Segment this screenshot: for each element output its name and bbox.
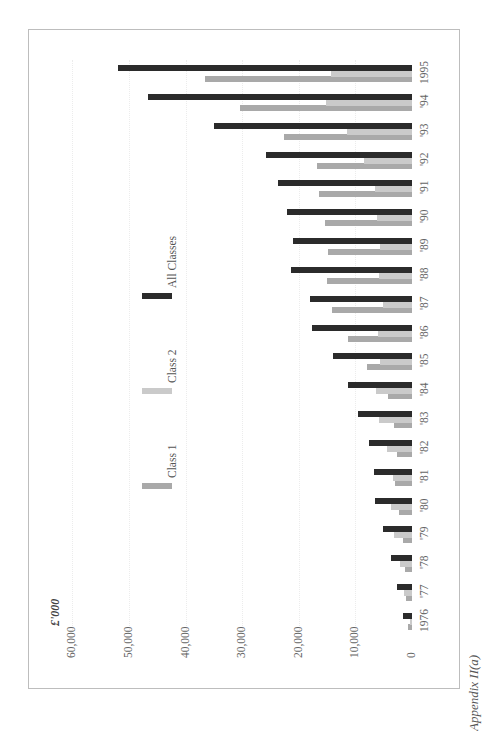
legend-label: All Classes xyxy=(166,236,178,288)
legend-swatch xyxy=(142,483,172,489)
gridline xyxy=(242,60,243,630)
bar-all-classes xyxy=(333,353,412,359)
bar-class-2 xyxy=(379,417,412,423)
bar-class-2 xyxy=(326,100,412,106)
x-axis-category-label: '86 xyxy=(418,325,430,339)
bar-all-classes xyxy=(291,267,412,273)
bar-class-2 xyxy=(394,532,412,538)
bar-all-classes xyxy=(214,123,412,129)
bar-all-classes xyxy=(391,555,412,561)
bar-class-2 xyxy=(380,244,412,250)
x-axis-category-label: '81 xyxy=(418,469,430,483)
y-axis-tick-label: 0 xyxy=(405,652,417,658)
bar-all-classes xyxy=(358,411,412,417)
bar-class-2 xyxy=(364,158,412,164)
bar-class-2 xyxy=(393,475,412,481)
gridline xyxy=(72,60,73,630)
y-axis-tick-label: 50,000 xyxy=(122,626,134,658)
bar-all-classes xyxy=(383,526,412,532)
bar-all-classes xyxy=(266,152,412,158)
figure-caption: Appendix II(a) xyxy=(466,655,482,731)
y-axis-unit-label: £'000 xyxy=(48,599,63,626)
bar-all-classes xyxy=(348,382,412,388)
bar-class-2 xyxy=(383,302,412,308)
bar-class-2 xyxy=(375,186,412,192)
x-axis-category-label: '78 xyxy=(418,556,430,570)
gridline xyxy=(299,60,300,630)
x-axis-category-label: '88 xyxy=(418,267,430,281)
bar-all-classes xyxy=(293,238,412,244)
x-axis-category-label: '93 xyxy=(418,123,430,137)
gridline xyxy=(129,60,130,630)
bar-all-classes xyxy=(397,584,412,590)
y-axis-tick-label: 60,000 xyxy=(65,626,77,658)
x-axis-category-label: '89 xyxy=(418,238,430,252)
legend-label: Class 2 xyxy=(166,349,178,383)
bar-class-2 xyxy=(400,561,412,567)
bar-all-classes xyxy=(118,65,412,71)
x-axis-category-label: '79 xyxy=(418,527,430,541)
bar-class-2 xyxy=(331,71,412,77)
y-axis-tick-label: 10,000 xyxy=(348,626,360,658)
bar-all-classes xyxy=(278,180,412,186)
bar-class-2 xyxy=(410,619,412,625)
bar-all-classes xyxy=(287,209,412,215)
y-axis-tick-label: 20,000 xyxy=(292,626,304,658)
y-axis-tick-label: 30,000 xyxy=(235,626,247,658)
bar-class-2 xyxy=(376,388,412,394)
bar-all-classes xyxy=(375,498,412,504)
bar-all-classes xyxy=(312,325,412,331)
x-axis-category-label: '82 xyxy=(418,440,430,454)
y-axis-tick-label: 40,000 xyxy=(179,626,191,658)
bar-class-2 xyxy=(379,273,412,279)
x-axis-category-label: '91 xyxy=(418,181,430,195)
bar-all-classes xyxy=(369,440,412,446)
x-axis-category-label: '77 xyxy=(418,585,430,599)
x-axis-category-label: '92 xyxy=(418,152,430,166)
x-axis-category-label: '84 xyxy=(418,383,430,397)
legend-swatch xyxy=(142,388,172,394)
bar-class-2 xyxy=(347,129,412,135)
bar-class-2 xyxy=(377,215,412,221)
bar-class-2 xyxy=(378,331,412,337)
bar-class-2 xyxy=(387,446,412,452)
bar-all-classes xyxy=(148,94,412,100)
gridline xyxy=(186,60,187,630)
x-axis-category-label: 1976 xyxy=(418,609,430,632)
gridline xyxy=(355,60,356,630)
x-axis-category-label: '94 xyxy=(418,94,430,108)
bar-all-classes xyxy=(374,469,412,475)
legend-label: Class 1 xyxy=(166,444,178,478)
x-axis-category-label: '90 xyxy=(418,210,430,224)
bar-all-classes xyxy=(310,296,412,302)
x-axis-category-label: '85 xyxy=(418,354,430,368)
bar-class-2 xyxy=(380,359,412,365)
x-axis-category-label: '80 xyxy=(418,498,430,512)
bar-class-2 xyxy=(404,590,412,596)
bar-all-classes xyxy=(403,613,412,619)
x-axis-category-label: 1995 xyxy=(418,61,430,84)
x-axis-category-label: '83 xyxy=(418,412,430,426)
legend-swatch xyxy=(142,293,172,299)
bar-class-2 xyxy=(391,504,412,510)
x-axis-category-label: '87 xyxy=(418,296,430,310)
